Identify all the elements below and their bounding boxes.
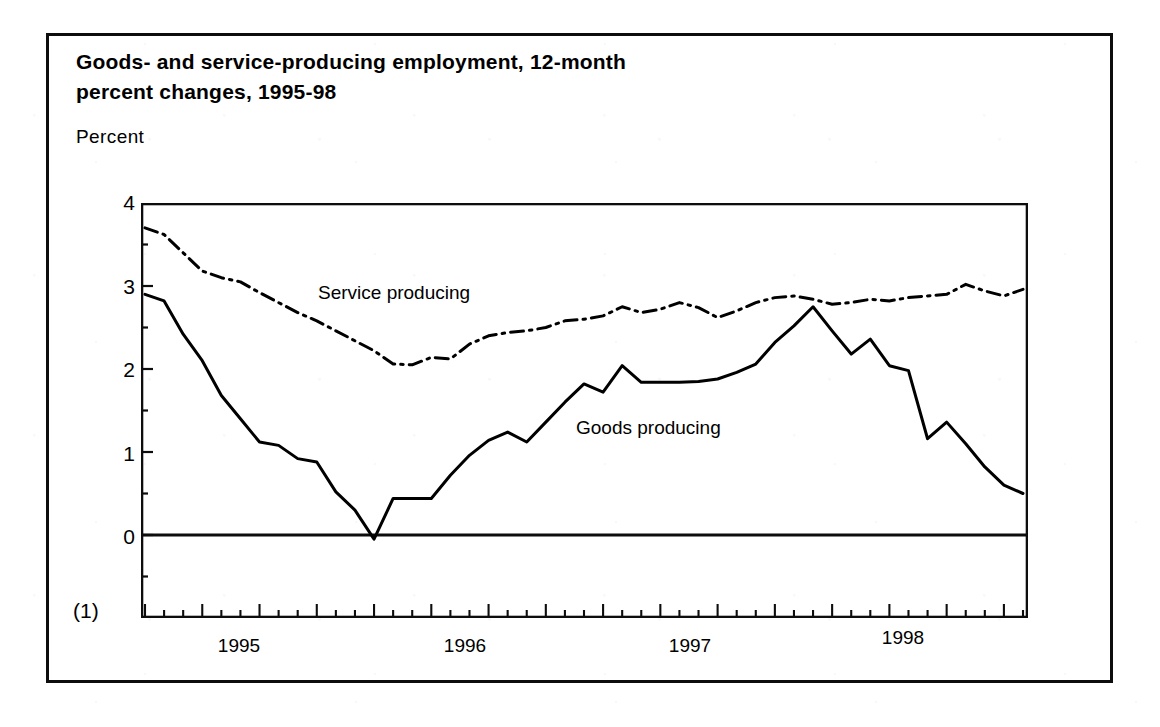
y-tick-label-1: 1 <box>95 443 135 464</box>
plot-box-border <box>142 204 1027 617</box>
y-tick-label-2: 2 <box>95 359 135 380</box>
y-tick-label-negative-one: (1) <box>73 600 135 621</box>
x-tick-label-1995: 1995 <box>194 636 284 655</box>
series-line-service-producing <box>145 228 1023 365</box>
y-tick-label-0: 0 <box>95 526 135 547</box>
series-line-goods-producing <box>145 294 1023 539</box>
y-axis-unit-caption: Percent <box>76 126 144 148</box>
x-axis-tick-marks <box>145 604 1023 617</box>
x-tick-label-1998: 1998 <box>858 628 948 647</box>
plot-svg <box>141 203 1028 618</box>
series-group <box>145 228 1023 539</box>
plot-area <box>141 203 1028 618</box>
axis-group <box>142 204 1027 617</box>
x-tick-label-1997: 1997 <box>645 636 735 655</box>
y-tick-label-3: 3 <box>95 276 135 297</box>
y-tick-label-4: 4 <box>95 192 135 213</box>
y-axis-tick-marks <box>142 203 153 618</box>
chart-title: Goods- and service-producing employment,… <box>76 47 916 107</box>
x-tick-label-1996: 1996 <box>420 636 510 655</box>
